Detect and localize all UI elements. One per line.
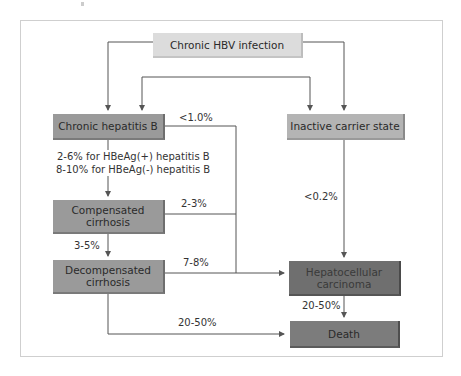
node-label: Compensated cirrhosis	[71, 204, 145, 228]
edge-label-chb-cc-1: 2-6% for HBeAg(+) hepatitis B	[57, 151, 210, 163]
edge-label-dc-hcc: 7-8%	[183, 257, 209, 269]
node-decompensated-cirrhosis: Decompensated cirrhosis	[53, 260, 165, 294]
node-label: Chronic hepatitis B	[58, 120, 157, 132]
node-label: Decompensated cirrhosis	[61, 264, 155, 288]
node-inactive-carrier-state: Inactive carrier state	[287, 114, 405, 140]
node-label: Hepatocellular carcinoma	[301, 266, 387, 290]
node-hepatocellular-carcinoma: Hepatocellular carcinoma	[289, 261, 401, 296]
node-compensated-cirrhosis: Compensated cirrhosis	[53, 200, 165, 234]
node-label: Death	[328, 328, 360, 340]
edge-label-chb-cc-2: 8-10% for HBeAg(-) hepatitis B	[56, 164, 210, 176]
node-chronic-hbv-infection: Chronic HBV infection	[153, 33, 303, 58]
node-death: Death	[290, 321, 400, 348]
node-label: Inactive carrier state	[290, 120, 399, 132]
node-label: Chronic HBV infection	[170, 39, 284, 51]
edge-label-hcc-death: 20-50%	[302, 300, 341, 312]
edge-label-cc-hcc: 2-3%	[181, 198, 207, 210]
edge-label-cc-dc: 3-5%	[74, 240, 100, 252]
node-chronic-hepatitis-b: Chronic hepatitis B	[53, 114, 165, 140]
edge-label-chb-hcc: <1.0%	[179, 112, 213, 124]
edge-label-dc-death: 20-50%	[178, 317, 217, 329]
edge-label-inactive-hcc: <0.2%	[304, 191, 338, 203]
